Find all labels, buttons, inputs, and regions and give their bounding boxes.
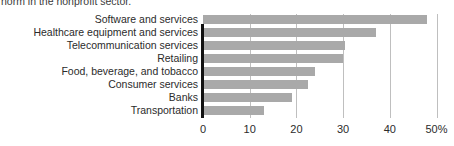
category-axis-labels: Software and servicesHealthcare equipmen…: [0, 14, 198, 118]
bar-row: [203, 80, 308, 89]
bar-chart: Software and servicesHealthcare equipmen…: [0, 11, 454, 146]
category-label-6: Banks: [0, 92, 198, 103]
caption-text: norm in the nonprofit sector.: [0, 0, 454, 8]
bar-row: [203, 15, 427, 24]
category-label-3: Retailing: [0, 53, 198, 64]
x-tick-label-30: 30: [337, 122, 349, 136]
x-tick-label-10: 10: [244, 122, 256, 136]
category-label-7: Transportation: [0, 105, 198, 116]
x-tick-label-0: 0: [200, 122, 206, 136]
bar-0: [203, 15, 427, 24]
category-label-1: Healthcare equipment and services: [0, 27, 198, 38]
bar-7: [203, 106, 264, 115]
bar-6: [203, 93, 292, 102]
x-axis-tick-labels: 01020304050%: [0, 122, 454, 140]
plot-area: [203, 14, 437, 118]
bar-row: [203, 41, 345, 50]
bar-4: [203, 67, 315, 76]
caption-line: norm in the nonprofit sector.: [0, 0, 454, 9]
bars-group: [203, 14, 437, 118]
bar-2: [203, 41, 345, 50]
category-label-4: Food, beverage, and tobacco: [0, 66, 198, 77]
zero-axis-line: [201, 24, 204, 118]
x-tick-label-20: 20: [290, 122, 302, 136]
category-label-0: Software and services: [0, 14, 198, 25]
x-tick-label-50: 50%: [425, 122, 447, 136]
gridline-50: [437, 14, 438, 118]
bar-5: [203, 80, 308, 89]
bar-row: [203, 93, 292, 102]
x-tick-label-40: 40: [384, 122, 396, 136]
bar-3: [203, 54, 343, 63]
bar-row: [203, 106, 264, 115]
bar-row: [203, 54, 343, 63]
category-label-5: Consumer services: [0, 79, 198, 90]
bar-row: [203, 67, 315, 76]
bar-row: [203, 28, 376, 37]
category-label-2: Telecommunication services: [0, 40, 198, 51]
bar-1: [203, 28, 376, 37]
